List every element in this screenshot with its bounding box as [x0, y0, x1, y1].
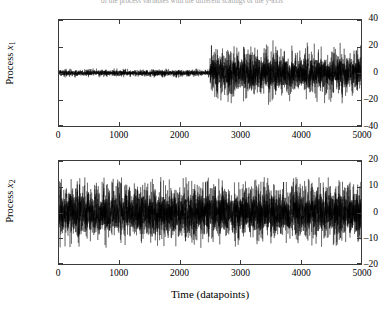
- y-axis-title-x1-sub: 1: [8, 41, 17, 45]
- figure-container: of the process variables with the differ…: [0, 0, 384, 313]
- y-axis-title-x2-sub: 2: [8, 179, 17, 183]
- x-tick-label-bottom-0: 0: [56, 269, 61, 279]
- x-tick-label-top-3: 3000: [231, 131, 250, 141]
- x-tick-label-bottom-1: 1000: [109, 269, 128, 279]
- x-tick-label-top-1: 1000: [109, 131, 128, 141]
- x-tick-label-bottom-4: 4000: [292, 269, 311, 279]
- x-tick-label-bottom-5: 5000: [353, 269, 372, 279]
- x-tick-label-top-5: 5000: [353, 131, 372, 141]
- y-axis-title-x1: Process x1: [4, 8, 18, 118]
- signal-trace-x1: [59, 20, 361, 126]
- clipped-caption: of the process variables with the differ…: [0, 0, 384, 6]
- panel-process-x1: Process x1 40 20 0 –20 –40: [0, 8, 384, 140]
- y-axis-title-x2: Process x2: [4, 146, 18, 256]
- plot-area-x1: [58, 19, 362, 127]
- y-axis-title-x2-prefix: Process: [4, 188, 15, 223]
- y-axis-title-x1-prefix: Process: [4, 50, 15, 85]
- panel-process-x2: Process x2 20 10 0 –10 –20: [0, 148, 384, 313]
- x-tick-label-bottom-2: 2000: [170, 269, 189, 279]
- x-tick-label-top-0: 0: [56, 131, 61, 141]
- x-tick-label-bottom-3: 3000: [231, 269, 250, 279]
- y-axis-title-x1-var: x: [4, 45, 15, 50]
- x-tick-label-top-2: 2000: [170, 131, 189, 141]
- x-axis-label: Time (datapoints): [58, 288, 362, 300]
- y-axis-title-x2-var: x: [4, 183, 15, 188]
- x-tick-label-top-4: 4000: [292, 131, 311, 141]
- plot-area-x2: [58, 160, 362, 265]
- signal-trace-x2: [59, 161, 361, 264]
